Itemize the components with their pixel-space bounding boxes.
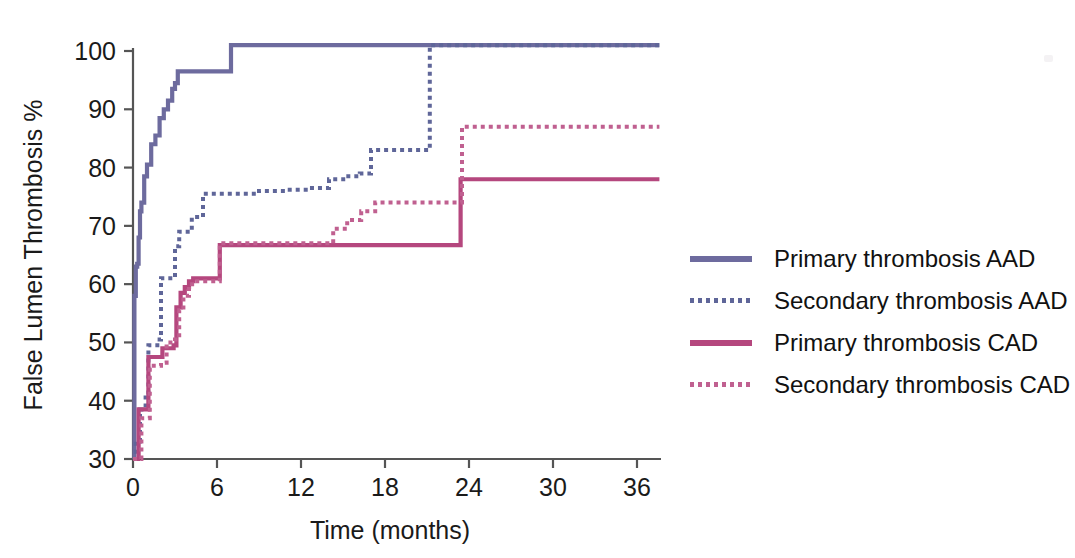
y-tick-label: 60 bbox=[88, 270, 116, 298]
y-tick-label: 90 bbox=[88, 95, 116, 123]
scan-artifact bbox=[1044, 55, 1053, 62]
y-axis-title: False Lumen Thrombosis % bbox=[19, 100, 47, 411]
series-line-primary-thrombosis-aad bbox=[133, 45, 659, 459]
x-tick-label: 36 bbox=[623, 473, 651, 501]
chart-legend: Primary thrombosis AADSecondary thrombos… bbox=[690, 238, 1070, 406]
y-tick-label: 30 bbox=[88, 445, 116, 473]
legend-item-secondary-cad[interactable]: Secondary thrombosis CAD bbox=[690, 364, 1070, 406]
x-axis-title: Time (months) bbox=[310, 516, 470, 544]
y-tick-label: 40 bbox=[88, 387, 116, 415]
legend-item-primary-aad[interactable]: Primary thrombosis AAD bbox=[690, 238, 1070, 280]
chart-svg: 30405060708090100061218243036Time (month… bbox=[0, 0, 700, 558]
series-line-primary-thrombosis-cad bbox=[133, 179, 659, 459]
y-tick-label: 50 bbox=[88, 328, 116, 356]
series-line-secondary-thrombosis-cad bbox=[133, 127, 659, 459]
x-tick-label: 30 bbox=[539, 473, 567, 501]
legend-label: Primary thrombosis AAD bbox=[774, 245, 1035, 273]
x-tick-label: 0 bbox=[126, 473, 140, 501]
x-tick-label: 18 bbox=[371, 473, 399, 501]
plot-area: 30405060708090100061218243036Time (month… bbox=[0, 0, 700, 558]
y-tick-label: 70 bbox=[88, 212, 116, 240]
figure-root: 30405060708090100061218243036Time (month… bbox=[0, 0, 1075, 558]
legend-label: Primary thrombosis CAD bbox=[774, 329, 1038, 357]
x-tick-label: 6 bbox=[210, 473, 224, 501]
legend-item-secondary-aad[interactable]: Secondary thrombosis AAD bbox=[690, 280, 1070, 322]
y-tick-label: 100 bbox=[74, 37, 116, 65]
x-tick-label: 12 bbox=[287, 473, 315, 501]
y-tick-label: 80 bbox=[88, 154, 116, 182]
legend-item-primary-cad[interactable]: Primary thrombosis CAD bbox=[690, 322, 1070, 364]
series-line-secondary-thrombosis-aad bbox=[133, 45, 659, 459]
legend-label: Secondary thrombosis CAD bbox=[774, 371, 1070, 399]
x-tick-label: 24 bbox=[455, 473, 483, 501]
legend-label: Secondary thrombosis AAD bbox=[774, 287, 1067, 315]
